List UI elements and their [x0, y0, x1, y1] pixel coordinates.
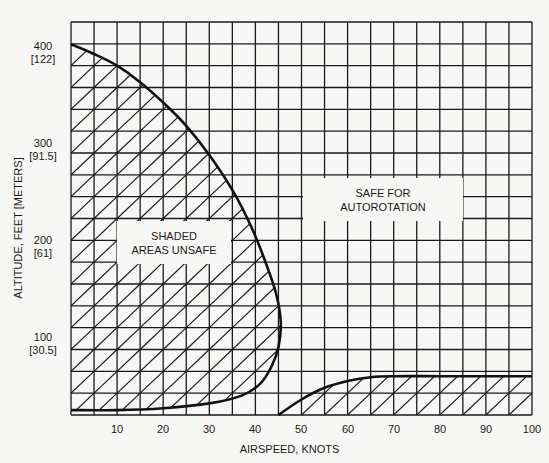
safe-annotation: SAFE FOR AUTOROTATION	[303, 178, 463, 221]
y-tick-100: 100 [30.5]	[18, 331, 68, 357]
y-tick-label: 300	[18, 137, 68, 150]
y-axis-title: ALTITUDE, FEET [METERS]	[12, 128, 24, 328]
x-tick-30: 30	[194, 423, 224, 435]
y-tick-label: 200	[18, 234, 68, 247]
annotation-line: SHADED	[132, 229, 217, 243]
x-tick-90: 90	[471, 423, 501, 435]
x-tick-10: 10	[102, 423, 132, 435]
x-tick-40: 40	[240, 423, 270, 435]
y-tick-label: 100	[18, 331, 68, 344]
x-axis-title: AIRSPEED, KNOTS	[0, 443, 549, 455]
annotation-line: AUTOROTATION	[340, 200, 426, 214]
annotation-line: AREAS UNSAFE	[132, 243, 217, 257]
x-tick-80: 80	[425, 423, 455, 435]
x-tick-20: 20	[148, 423, 178, 435]
y-tick-sublabel: [30.5]	[18, 344, 68, 357]
x-tick-50: 50	[286, 423, 316, 435]
y-tick-label: 400	[18, 40, 68, 53]
y-tick-300: 300 [91.5]	[18, 137, 68, 163]
y-tick-sublabel: [61]	[18, 247, 68, 260]
height-velocity-diagram	[0, 0, 549, 463]
x-tick-100: 100	[517, 423, 547, 435]
y-tick-sublabel: [122]	[18, 53, 68, 66]
unsafe-annotation: SHADED AREAS UNSAFE	[117, 221, 231, 264]
y-tick-200: 200 [61]	[18, 234, 68, 260]
x-tick-60: 60	[333, 423, 363, 435]
annotation-line: SAFE FOR	[340, 186, 426, 200]
y-tick-sublabel: [91.5]	[18, 150, 68, 163]
y-tick-400: 400 [122]	[18, 40, 68, 66]
x-tick-70: 70	[379, 423, 409, 435]
